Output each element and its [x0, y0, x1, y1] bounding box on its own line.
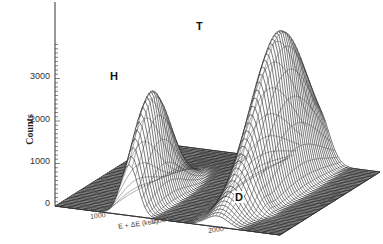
surface-plot: [0, 0, 383, 244]
z-axis-label: Counts: [24, 105, 35, 155]
z-tick-1000: 1000: [20, 156, 50, 166]
peak-label-d: D: [234, 191, 244, 203]
z-axis-ticks: [55, 45, 60, 207]
z-tick-3000: 3000: [20, 71, 50, 81]
peak-label-h: H: [110, 70, 118, 82]
z-tick-0: 0: [20, 198, 50, 208]
peak-label-t: T: [196, 20, 203, 32]
wireframe-surface: [55, 31, 380, 235]
